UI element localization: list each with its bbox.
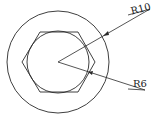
r6-label: R6 <box>133 78 147 89</box>
technical-drawing: R10 R6 <box>0 0 163 118</box>
r6-leader-line <box>58 62 145 90</box>
drawing-canvas: R10 R6 <box>0 0 163 118</box>
r10-label: R10 <box>129 1 151 17</box>
r10-arrowhead <box>103 31 109 36</box>
